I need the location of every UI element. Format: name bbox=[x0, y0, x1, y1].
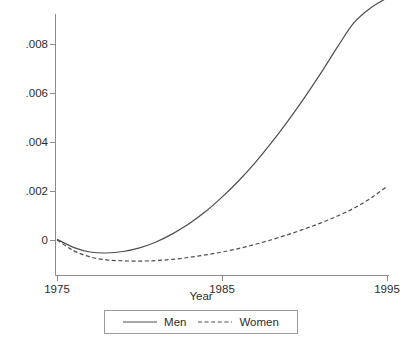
x-axis-title: Year bbox=[0, 290, 402, 302]
legend-label-women: Women bbox=[239, 316, 278, 328]
x-axis-ticks bbox=[58, 276, 388, 282]
chart-legend: Men Women bbox=[104, 310, 298, 334]
y-tick-label: .01 bbox=[6, 0, 48, 1]
axes bbox=[50, 0, 389, 281]
series-line-men bbox=[57, 0, 387, 253]
legend-label-men: Men bbox=[164, 316, 186, 328]
legend-line-solid-icon bbox=[123, 317, 157, 327]
data-series-group bbox=[57, 0, 387, 261]
y-axis-ticks bbox=[50, 0, 56, 241]
y-tick-label: .006 bbox=[6, 87, 48, 99]
y-tick-label: .002 bbox=[6, 185, 48, 197]
y-tick-label: 0 bbox=[6, 234, 48, 246]
y-tick-label: .004 bbox=[6, 136, 48, 148]
legend-line-dashed-icon bbox=[198, 317, 232, 327]
y-tick-label: .008 bbox=[6, 38, 48, 50]
legend-item-women: Women bbox=[198, 316, 278, 328]
chart-figure: 0.002.004.006.008.01 197519851995 Year M… bbox=[0, 0, 402, 346]
legend-item-men: Men bbox=[123, 316, 186, 328]
